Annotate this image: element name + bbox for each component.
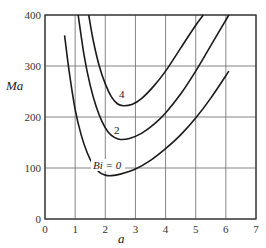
curve-bi2 (78, 15, 229, 139)
x-tick-label: 2 (103, 223, 109, 235)
x-tick-label: 1 (72, 223, 78, 235)
x-tick-label: 7 (253, 223, 259, 235)
x-tick-labels: 01234567 (42, 223, 259, 235)
y-tick-label: 0 (36, 213, 42, 225)
chart: 01234567 0100200300400 Ma a 4 2 Bi = 0 (0, 0, 266, 248)
y-axis-label: Ma (5, 78, 24, 93)
y-tick-label: 400 (25, 9, 42, 21)
y-tick-labels: 0100200300400 (25, 9, 42, 225)
x-axis-label: a (118, 231, 125, 246)
y-tick-label: 200 (25, 111, 42, 123)
curve-label-bi2: 2 (114, 124, 120, 136)
curve-label-bi0: Bi = 0 (93, 159, 122, 171)
curve-label-bi4: 4 (119, 88, 125, 100)
x-tick-label: 4 (163, 223, 169, 235)
x-tick-label: 5 (193, 223, 199, 235)
x-tick-label: 6 (223, 223, 229, 235)
y-tick-label: 300 (25, 60, 42, 72)
x-tick-label: 0 (42, 223, 48, 235)
curves (65, 15, 229, 176)
y-tick-label: 100 (25, 162, 42, 174)
x-tick-label: 3 (133, 223, 139, 235)
curve-bi4 (89, 15, 204, 106)
